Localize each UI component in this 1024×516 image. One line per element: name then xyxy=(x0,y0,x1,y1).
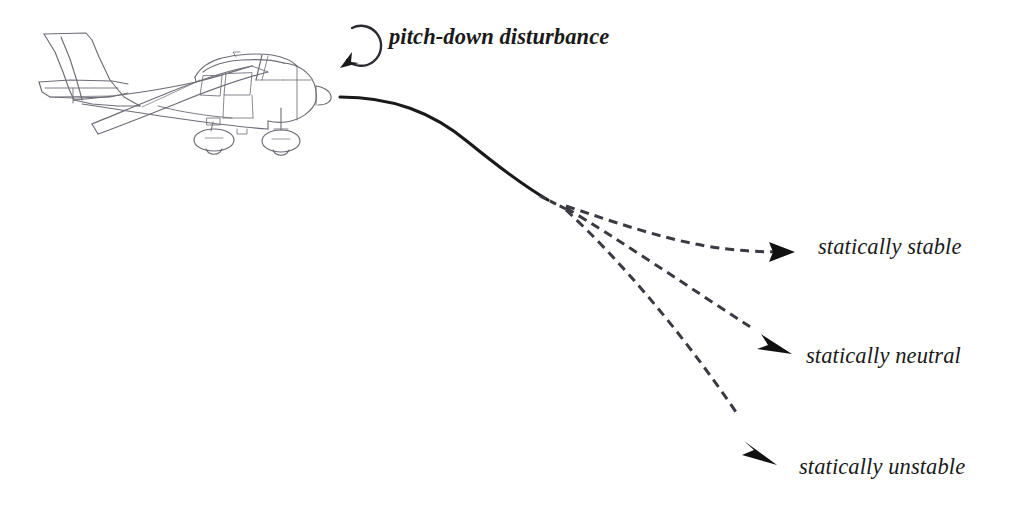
branch-label-unstable: statically unstable xyxy=(799,456,965,479)
rotation-arrow-counterclockwise-icon xyxy=(340,26,381,68)
branch-label-neutral: statically neutral xyxy=(806,345,961,368)
diagram-canvas: pitch-down disturbance statically stable… xyxy=(0,0,1024,516)
disturbance-label: pitch-down disturbance xyxy=(389,26,609,49)
branch-label-stable: statically stable xyxy=(818,236,962,259)
